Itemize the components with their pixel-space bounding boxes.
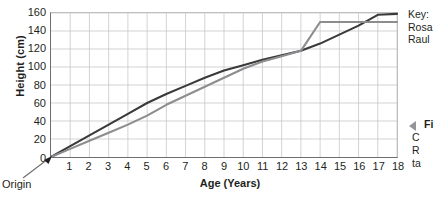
x-tick-label: 7 <box>175 160 195 172</box>
x-tick-label: 2 <box>79 160 99 172</box>
x-tick-label: 15 <box>330 160 350 172</box>
data-series-layer <box>51 13 397 157</box>
y-axis-tick-labels: 160140120100806040200 <box>14 12 46 158</box>
caption-line-2: R <box>412 144 446 157</box>
series-line-raul <box>51 22 397 157</box>
x-tick-label: 13 <box>291 160 311 172</box>
x-axis-title: Age (Years) <box>120 177 340 189</box>
key-entry-rosa: Rosa <box>408 21 446 34</box>
y-tick-label: 100 <box>14 61 46 72</box>
chart-key: Key: Rosa Raul <box>408 8 446 46</box>
x-tick-label: 17 <box>369 160 389 172</box>
chart-figure: Height (cm) 160140120100806040200 123456… <box>0 0 446 201</box>
x-tick-label: 4 <box>117 160 137 172</box>
x-tick-label: 8 <box>195 160 215 172</box>
caption-line-1: C <box>412 131 446 144</box>
x-tick-label: 6 <box>156 160 176 172</box>
y-tick-label: 60 <box>14 98 46 109</box>
x-tick-label: 3 <box>98 160 118 172</box>
x-tick-label: 16 <box>349 160 369 172</box>
caption-title: Fi <box>424 118 446 131</box>
key-entry-raul: Raul <box>408 33 446 46</box>
x-tick-label: 14 <box>311 160 331 172</box>
figure-caption: Fi C R ta <box>412 118 446 170</box>
x-tick-label: 9 <box>214 160 234 172</box>
y-tick-label: 80 <box>14 80 46 91</box>
origin-label: Origin <box>2 178 31 190</box>
y-tick-label: 140 <box>14 25 46 36</box>
y-tick-label: 40 <box>14 116 46 127</box>
y-tick-label: 120 <box>14 43 46 54</box>
x-tick-label: 18 <box>388 160 408 172</box>
x-tick-label: 5 <box>137 160 157 172</box>
x-tick-label: 1 <box>59 160 79 172</box>
x-tick-label: 10 <box>233 160 253 172</box>
y-tick-label: 20 <box>14 134 46 145</box>
plot-area <box>50 12 398 158</box>
key-heading: Key: <box>408 8 446 21</box>
x-tick-label: 11 <box>253 160 273 172</box>
y-tick-label: 160 <box>14 7 46 18</box>
x-axis-tick-labels: 123456789101112131415161718 <box>50 160 398 174</box>
x-tick-label: 12 <box>272 160 292 172</box>
caption-line-3: ta <box>412 157 446 170</box>
